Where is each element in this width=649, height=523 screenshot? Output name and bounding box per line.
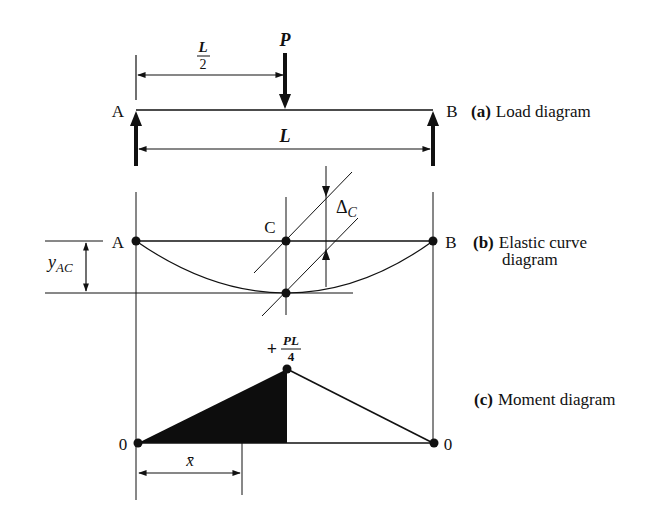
moment-right-value: 0 [444,435,453,454]
point-load-arrow-icon [279,53,291,109]
half-span-denominator: 2 [200,57,207,72]
deflected-curve [136,241,433,293]
load-diagram: L 2 P A B L (a)Load diagram [112,30,591,166]
caption-elastic-curve-line2: diagram [502,250,558,269]
node-b [429,237,438,246]
deflection-label: ΔC [336,197,358,220]
support-label-a: A [112,102,125,121]
reaction-arrow-a-icon [130,111,142,166]
node-a [132,237,141,246]
moment-left-value: 0 [119,435,128,454]
point-label-b: B [445,233,456,252]
support-label-b: B [446,102,457,121]
half-span-numerator: L [197,39,207,55]
node-moment-right [430,439,439,448]
deflection-arrow-up-icon [322,249,330,260]
caption-moment-diagram: (c)Moment diagram [474,390,615,409]
moment-line-right [287,369,433,443]
node-moment-peak [283,365,292,374]
offset-label: yAC [46,252,73,275]
peak-denominator: 4 [288,349,295,364]
caption-load-diagram: (a)Load diagram [471,102,591,121]
moment-area-shaded [138,369,287,443]
reaction-arrow-b-icon [427,111,439,166]
slope-line-lower [262,218,358,316]
node-max-deflection [282,289,291,298]
point-label-c: C [264,218,275,237]
span-label: L [279,126,291,146]
moment-diagram: 0 0 + PL 4 x̄ (c)Moment diagram [119,333,616,495]
peak-numerator: PL [283,333,299,348]
load-label: P [279,30,292,50]
peak-sign: + [267,339,277,359]
point-label-a: A [112,233,125,252]
node-moment-left [134,439,143,448]
beam-deflection-diagram: L 2 P A B L (a)Load diagram [0,0,649,523]
node-c [282,237,291,246]
centroid-label: x̄ [185,451,194,470]
